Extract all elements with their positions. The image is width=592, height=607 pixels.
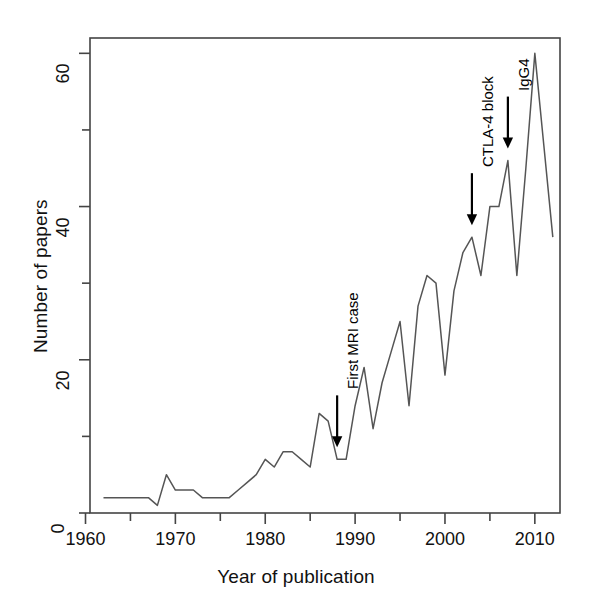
x-tick-label: 2000 bbox=[425, 529, 465, 550]
annotation-label: First MRI case bbox=[344, 293, 361, 390]
y-tick-label: 40 bbox=[53, 217, 74, 237]
y-tick-label: 20 bbox=[53, 370, 74, 390]
labels-layer: 0204060196019701980199020002010First MRI… bbox=[0, 0, 592, 607]
x-tick-label: 2010 bbox=[515, 529, 555, 550]
annotation-label: IgG4 bbox=[515, 58, 532, 91]
x-tick-label: 1970 bbox=[155, 529, 195, 550]
annotation-label: CTLA-4 block bbox=[479, 76, 496, 167]
figure-plot-area: Number of papers Year of publication 020… bbox=[0, 0, 592, 607]
x-tick-label: 1980 bbox=[245, 529, 285, 550]
y-tick-label: 60 bbox=[53, 64, 74, 84]
x-tick-label: 1990 bbox=[335, 529, 375, 550]
x-tick-label: 1960 bbox=[66, 529, 106, 550]
